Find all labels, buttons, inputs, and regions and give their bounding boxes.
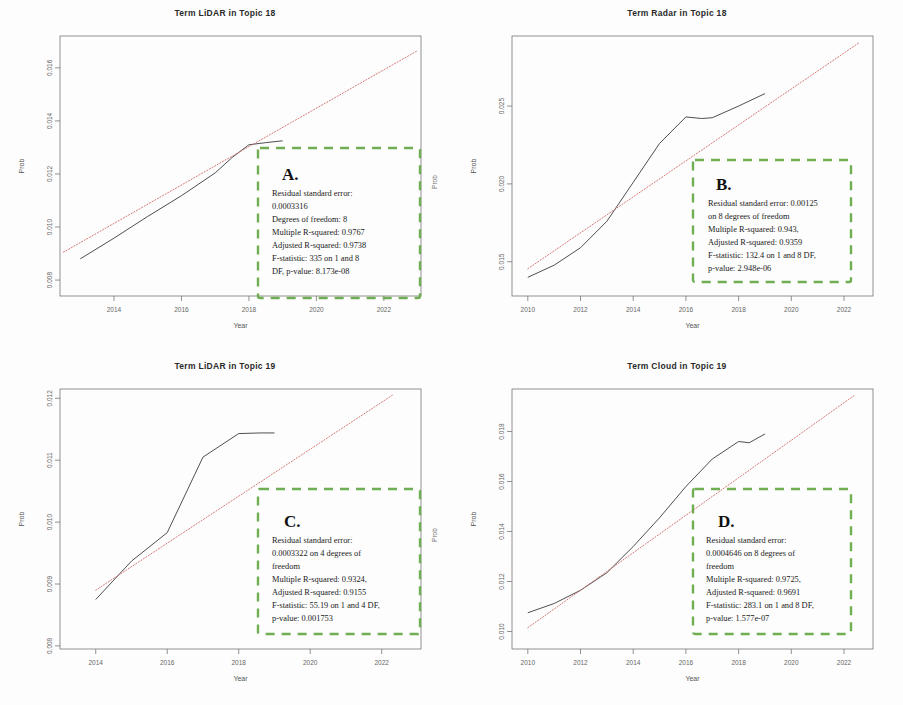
x-tick-label-2020: 2020 [309, 306, 324, 313]
annotation-line-d-5: F-statistic: 283.1 on 1 and 8 DF, [706, 601, 814, 610]
panel-a-svg: Term LiDAR in Topic 18 20142016201820202… [0, 0, 451, 352]
x-axis-label: Year [685, 675, 700, 682]
annotation-line-d-1: 0.0004646 on 8 degrees of [706, 549, 795, 558]
y-tick-label-4: 0.016 [46, 59, 53, 76]
y-tick-label-3: 0.011 [46, 452, 53, 468]
panel-c-svg: Term LiDAR in Topic 19 20142016201820202… [0, 353, 451, 705]
annotation-line-b-2: Multiple R-squared: 0.943, [708, 225, 799, 234]
x-tick-label-2018: 2018 [731, 306, 746, 313]
x-axis-label: Year [233, 675, 248, 682]
series-linear-fit [528, 395, 855, 628]
x-tick-label-2022: 2022 [374, 659, 389, 666]
annotation-line-a-6: DF, p-value: 8.173e-08 [272, 267, 349, 276]
annotation-line-a-4: Adjusted R-squared: 0.9738 [272, 241, 366, 250]
annotation-line-c-3: Multiple R-squared: 0.9324, [272, 575, 367, 584]
series-linear-fit [528, 42, 860, 269]
x-tick-label-2018: 2018 [231, 659, 246, 666]
x-tick-label-2010: 2010 [521, 659, 536, 666]
annotation-line-b-4: F-statistic: 132.4 on 1 and 8 DF, [708, 251, 816, 260]
x-tick-label-2022: 2022 [837, 659, 852, 666]
y-tick-label-3: 0.014 [46, 112, 53, 129]
x-tick-label-2014: 2014 [626, 659, 641, 666]
annotation-letter-c: C. [284, 512, 301, 531]
annotation-line-d-3: Multiple R-squared: 0.9725, [706, 575, 801, 584]
y-tick-label-2: 0.012 [46, 165, 53, 182]
x-tick-label-2018: 2018 [242, 306, 257, 313]
annotation-line-c-1: 0.0003322 on 4 degrees of [272, 549, 361, 558]
panel-a: Term LiDAR in Topic 18 20142016201820202… [0, 0, 451, 352]
x-tick-label-2012: 2012 [573, 659, 588, 666]
panel-c-right-prob-label: Prob [431, 528, 438, 542]
x-axis-label: Year [685, 322, 700, 329]
y-tick-label-0: 0.008 [46, 637, 53, 654]
y-tick-label-1: 0.010 [46, 219, 53, 236]
panel-c-title: Term LiDAR in Topic 19 [174, 361, 275, 371]
annotation-line-d-2: freedom [706, 562, 734, 571]
x-tick-label-2020: 2020 [784, 659, 799, 666]
y-tick-label-1: 0.020 [498, 175, 505, 192]
panel-d-title: Term Cloud in Topic 19 [627, 361, 726, 371]
x-tick-label-2016: 2016 [679, 659, 694, 666]
y-tick-label-4: 0.012 [46, 390, 53, 407]
annotation-line-b-5: p-value: 2.948e-06 [708, 264, 771, 273]
x-tick-label-2020: 2020 [784, 306, 799, 313]
y-tick-label-3: 0.016 [498, 473, 505, 490]
y-tick-label-2: 0.025 [498, 98, 505, 115]
annotation-letter-b: B. [716, 175, 732, 194]
y-tick-label-0: 0.015 [498, 253, 505, 270]
annotation-line-a-5: F-statistic: 335 on 1 and 8 [272, 254, 359, 263]
annotation-line-b-3: Adjusted R-squared: 0.9359 [708, 238, 802, 247]
annotation-line-d-0: Residual standard error: [706, 536, 786, 545]
y-tick-label-4: 0.018 [498, 423, 505, 440]
x-tick-label-2014: 2014 [107, 306, 122, 313]
x-tick-label-2016: 2016 [174, 306, 189, 313]
panel-d-plot: 20102012201420162018202020220.0100.0120.… [470, 389, 873, 682]
y-tick-label-1: 0.009 [46, 575, 53, 592]
x-axis-label: Year [233, 322, 248, 329]
annotation-line-d-4: Adjusted R-squared: 0.9691 [706, 588, 800, 597]
annotation-line-c-0: Residual standard error: [272, 536, 352, 545]
annotation-line-c-2: freedom [272, 562, 300, 571]
x-tick-label-2022: 2022 [377, 306, 392, 313]
annotation-line-d-6: p-value: 1.577e-07 [706, 614, 769, 623]
y-tick-label-1: 0.012 [498, 573, 505, 590]
annotation-line-c-4: Adjusted R-squared: 0.9155 [272, 588, 366, 597]
series-observed [96, 433, 275, 600]
panel-b: Term Radar in Topic 18 20102012201420162… [452, 0, 903, 352]
x-tick-label-2016: 2016 [160, 659, 175, 666]
x-tick-label-2018: 2018 [731, 659, 746, 666]
x-tick-label-2010: 2010 [521, 306, 536, 313]
y-axis-label: Prob [470, 512, 477, 527]
x-tick-label-2020: 2020 [303, 659, 318, 666]
plot-frame [60, 36, 421, 296]
annotation-letter-a: A. [282, 165, 299, 184]
panel-b-svg: Term Radar in Topic 18 20102012201420162… [452, 0, 903, 352]
annotation-line-a-1: 0.0003316 [272, 202, 308, 211]
panel-b-plot: 20102012201420162018202020220.0150.0200.… [470, 36, 873, 329]
annotation-line-a-0: Residual standard error: [272, 189, 352, 198]
x-tick-label-2014: 2014 [89, 659, 104, 666]
annotation-letter-d: D. [718, 512, 735, 531]
series-linear-fit [96, 395, 393, 590]
panel-c: Term LiDAR in Topic 19 20142016201820202… [0, 353, 451, 705]
panel-a-right-prob-label: Prob [431, 175, 438, 189]
panel-b-title: Term Radar in Topic 18 [627, 8, 726, 18]
y-axis-label: Prob [18, 512, 25, 527]
panel-c-plot: 201420162018202020220.0080.0090.0100.011… [18, 389, 421, 682]
x-tick-label-2014: 2014 [626, 306, 641, 313]
panel-d-svg: Term Cloud in Topic 19 20102012201420162… [452, 353, 903, 705]
plot-frame [512, 389, 873, 649]
x-tick-label-2012: 2012 [573, 306, 588, 313]
annotation-line-c-6: p-value: 0.001753 [272, 614, 333, 623]
y-tick-label-0: 0.010 [498, 623, 505, 640]
panel-a-plot: 201420162018202020220.0080.0100.0120.014… [18, 36, 421, 329]
x-tick-label-2022: 2022 [837, 306, 852, 313]
annotation-line-c-5: F-statistic: 55.19 on 1 and 4 DF, [272, 601, 380, 610]
y-tick-label-2: 0.014 [498, 523, 505, 540]
panel-a-title: Term LiDAR in Topic 18 [174, 8, 275, 18]
y-axis-label: Prob [470, 159, 477, 174]
series-observed [80, 141, 282, 259]
panel-d: Term Cloud in Topic 19 20102012201420162… [452, 353, 903, 705]
y-tick-label-2: 0.010 [46, 514, 53, 531]
y-axis-label: Prob [18, 159, 25, 174]
